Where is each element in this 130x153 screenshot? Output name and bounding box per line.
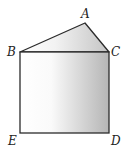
label-e: E [7,134,17,148]
label-c: C [111,45,120,59]
square-bcde [20,52,109,133]
label-b: B [6,45,16,59]
label-a: A [80,7,90,21]
label-d: D [110,134,121,148]
triangle-abc [20,23,109,52]
geometry-diagram: A B C E D [0,0,130,153]
